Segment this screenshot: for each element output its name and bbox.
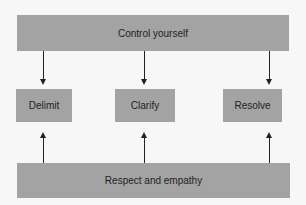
respect-empathy-label: Respect and empathy (105, 175, 202, 186)
clarify-label: Clarify (131, 100, 159, 111)
arrow-to-clarify (144, 51, 145, 80)
delimit-label: Delimit (29, 100, 60, 111)
arrow-from-respect-to-clarify (144, 137, 145, 163)
arrowhead-down-icon (141, 79, 147, 85)
control-yourself-bar: Control yourself (17, 15, 289, 51)
control-yourself-label: Control yourself (118, 28, 188, 39)
delimit-box: Delimit (16, 89, 72, 122)
arrow-from-respect-to-resolve (269, 137, 270, 163)
arrow-to-delimit (43, 51, 44, 80)
respect-empathy-bar: Respect and empathy (17, 163, 290, 198)
resolve-box: Resolve (223, 89, 282, 122)
arrow-from-respect-to-delimit (43, 137, 44, 163)
arrow-to-resolve (269, 51, 270, 80)
arrowhead-down-icon (266, 79, 272, 85)
resolve-label: Resolve (234, 100, 270, 111)
clarify-box: Clarify (115, 89, 175, 122)
arrowhead-down-icon (40, 79, 46, 85)
